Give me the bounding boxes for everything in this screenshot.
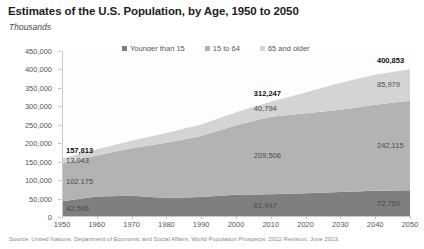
stacked-areas bbox=[62, 51, 410, 217]
series-data-label: 209,506 bbox=[254, 151, 281, 160]
y-axis-tick-mark bbox=[58, 125, 61, 126]
series-data-label: 85,979 bbox=[377, 80, 400, 89]
page-title: Estimates of the U.S. Population, by Age… bbox=[8, 5, 299, 17]
y-axis-tick-label: 400,000 bbox=[25, 65, 52, 74]
x-axis-tick-label: 2040 bbox=[367, 220, 384, 229]
y-axis-tick-mark bbox=[58, 106, 61, 107]
x-axis-tick-label: 2050 bbox=[402, 220, 419, 229]
y-axis-tick-mark bbox=[58, 143, 61, 144]
x-axis-tick-mark bbox=[410, 216, 411, 219]
series-data-label: 102,175 bbox=[66, 177, 93, 186]
x-axis-tick-label: 2030 bbox=[332, 220, 349, 229]
x-axis-tick-label: 1970 bbox=[123, 220, 140, 229]
x-axis-tick-label: 1990 bbox=[193, 220, 210, 229]
y-axis-tick-label: 150,000 bbox=[25, 157, 52, 166]
series-data-label: 72,759 bbox=[377, 199, 400, 208]
y-axis-tick-label: 450,000 bbox=[25, 47, 52, 56]
plot-area: 157,81313,043102,17542,596312,24740,7942… bbox=[62, 51, 410, 217]
x-axis-tick-mark bbox=[375, 216, 376, 219]
x-axis-tick-mark bbox=[166, 216, 167, 219]
x-axis-tick-mark bbox=[306, 216, 307, 219]
x-axis-tick-mark bbox=[236, 216, 237, 219]
y-axis-tick-label: 100,000 bbox=[25, 176, 52, 185]
y-axis: 450,000400,000350,000300,000250,000200,0… bbox=[0, 51, 58, 217]
x-axis-tick-label: 2010 bbox=[262, 220, 279, 229]
y-axis-tick-label: 350,000 bbox=[25, 83, 52, 92]
series-data-label: 61,947 bbox=[254, 201, 277, 210]
series-data-label: 13,043 bbox=[66, 156, 89, 165]
source-note: Source: United Nations, Department of Ec… bbox=[9, 236, 340, 242]
total-data-label: 157,813 bbox=[66, 146, 93, 155]
y-axis-tick-label: 50,000 bbox=[29, 194, 52, 203]
y-axis-tick-label: 0 bbox=[48, 213, 52, 222]
chart-units-subtitle: Thousands bbox=[9, 22, 51, 32]
y-axis-tick-mark bbox=[58, 162, 61, 163]
x-axis-tick-mark bbox=[62, 216, 63, 219]
x-axis-tick-mark bbox=[340, 216, 341, 219]
y-axis-tick-mark bbox=[58, 69, 61, 70]
y-axis-tick-mark bbox=[58, 217, 61, 218]
total-data-label: 312,247 bbox=[254, 89, 281, 98]
x-axis-tick-mark bbox=[201, 216, 202, 219]
x-axis-tick-label: 1960 bbox=[88, 220, 105, 229]
x-axis-tick-label: 2020 bbox=[297, 220, 314, 229]
x-axis-tick-mark bbox=[271, 216, 272, 219]
y-axis-tick-mark bbox=[58, 180, 61, 181]
series-data-label: 42,596 bbox=[66, 204, 89, 213]
y-axis-tick-mark bbox=[58, 51, 61, 52]
x-axis-tick-mark bbox=[97, 216, 98, 219]
x-axis: 1950196019701980199020002010202020302040… bbox=[62, 220, 410, 234]
x-axis-tick-mark bbox=[132, 216, 133, 219]
y-axis-tick-mark bbox=[58, 88, 61, 89]
chart-page: Estimates of the U.S. Population, by Age… bbox=[0, 0, 424, 249]
y-axis-tick-label: 250,000 bbox=[25, 120, 52, 129]
total-data-label: 400,853 bbox=[377, 56, 404, 65]
y-axis-tick-label: 300,000 bbox=[25, 102, 52, 111]
series-data-label: 40,794 bbox=[254, 104, 277, 113]
y-axis-line bbox=[62, 51, 63, 217]
y-axis-tick-mark bbox=[58, 199, 61, 200]
x-axis-tick-label: 1950 bbox=[54, 220, 71, 229]
x-axis-tick-label: 2000 bbox=[228, 220, 245, 229]
x-axis-tick-label: 1980 bbox=[158, 220, 175, 229]
series-data-label: 242,115 bbox=[377, 141, 404, 150]
y-axis-tick-label: 200,000 bbox=[25, 139, 52, 148]
